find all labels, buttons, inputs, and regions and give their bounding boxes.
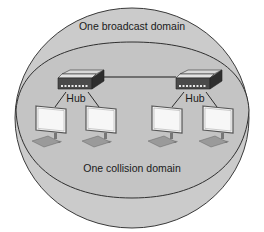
hub-label-right: Hub bbox=[185, 92, 204, 104]
broadcast-domain-label: One broadcast domain bbox=[79, 20, 185, 32]
collision-domain-label: One collision domain bbox=[83, 162, 181, 174]
hub-label-left: Hub bbox=[66, 92, 85, 104]
network-diagram: One broadcast domain Hub Hub bbox=[0, 0, 264, 232]
